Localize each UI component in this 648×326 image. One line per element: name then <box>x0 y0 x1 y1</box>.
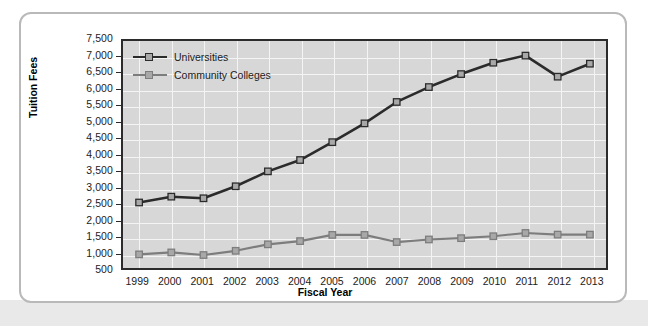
y-axis-tick-label: 5,500 <box>43 98 113 110</box>
data-point-marker <box>587 231 594 237</box>
y-axis-tick-label: 1,000 <box>43 247 113 259</box>
data-point-marker <box>265 168 272 174</box>
data-point-marker <box>522 230 529 236</box>
y-axis-tick-label: 3,500 <box>43 164 113 176</box>
data-point-marker <box>168 249 175 255</box>
legend-label: Universities <box>174 51 228 63</box>
y-axis-tick-label: 4,500 <box>43 131 113 143</box>
y-axis-tick-label: 500 <box>43 263 113 275</box>
legend-square-icon <box>145 71 153 79</box>
legend-item[interactable]: Universities <box>133 48 323 65</box>
y-axis-tick-label: 7,500 <box>43 32 113 44</box>
y-axis-tick-label: 6,500 <box>43 65 113 77</box>
y-axis-tick-label: 4,000 <box>43 148 113 160</box>
data-point-marker <box>168 193 175 199</box>
data-point-marker <box>200 195 207 201</box>
legend-label: Community Colleges <box>174 69 271 81</box>
data-point-marker <box>522 52 529 58</box>
legend-marker-icon <box>133 51 167 63</box>
data-point-marker <box>136 251 143 257</box>
data-point-marker <box>393 99 400 105</box>
data-point-marker <box>329 139 336 145</box>
x-axis-title: Fiscal Year <box>21 286 629 298</box>
data-point-marker <box>587 60 594 66</box>
data-point-marker <box>200 252 207 258</box>
data-point-marker <box>393 239 400 245</box>
x-axis-tick-label: 2013 <box>572 275 612 287</box>
y-axis-tick-label: 6,000 <box>43 82 113 94</box>
data-point-marker <box>554 231 561 237</box>
data-point-marker <box>265 241 272 247</box>
legend-square-icon <box>145 53 153 61</box>
y-axis-tick-label: 5,000 <box>43 115 113 127</box>
y-axis-tick-label: 3,000 <box>43 181 113 193</box>
data-point-marker <box>361 120 368 126</box>
y-axis-tick-label: 1,500 <box>43 230 113 242</box>
data-point-marker <box>490 59 497 65</box>
data-point-marker <box>232 248 239 254</box>
data-point-marker <box>297 157 304 163</box>
data-point-marker <box>136 199 143 205</box>
data-point-marker <box>232 183 239 189</box>
legend-item[interactable]: Community Colleges <box>133 66 323 83</box>
y-axis-tick-label: 2,500 <box>43 197 113 209</box>
data-point-marker <box>458 235 465 241</box>
y-axis-tick-label: 7,000 <box>43 49 113 61</box>
legend-marker-icon <box>133 69 167 81</box>
data-point-marker <box>329 232 336 238</box>
series-community-colleges <box>136 230 593 259</box>
line-chart: Tuition Fees Fiscal Year 7,5007,0006,500… <box>21 14 629 305</box>
data-point-marker <box>458 71 465 77</box>
chart-legend: UniversitiesCommunity Colleges <box>133 48 323 84</box>
y-axis-tick-label: 2,000 <box>43 214 113 226</box>
figure-card: Tuition Fees Fiscal Year 7,5007,0006,500… <box>19 12 627 303</box>
data-point-marker <box>554 73 561 79</box>
data-point-marker <box>297 238 304 244</box>
data-point-marker <box>426 84 433 90</box>
data-point-marker <box>490 233 497 239</box>
data-point-marker <box>426 236 433 242</box>
page-background: Tuition Fees Fiscal Year 7,5007,0006,500… <box>0 0 648 326</box>
data-point-marker <box>361 232 368 238</box>
y-axis-title: Tuition Fees <box>27 57 39 118</box>
